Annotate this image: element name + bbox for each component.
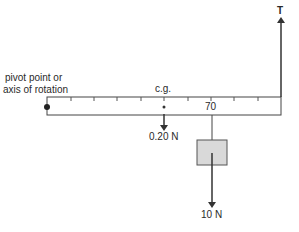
pivot-point-icon xyxy=(44,104,50,110)
pivot-label-line2: axis of rotation xyxy=(3,84,68,95)
tension-label: T xyxy=(277,5,283,16)
pivot-label-line1: pivot point or xyxy=(5,72,62,83)
center-of-gravity-icon xyxy=(163,106,166,109)
cg-label: c.g. xyxy=(155,83,171,94)
hanging-weight-label: 10 N xyxy=(201,209,222,220)
mark-70-label: 70 xyxy=(205,101,216,112)
lever-diagram xyxy=(0,0,299,232)
ruler-weight-label: 0.20 N xyxy=(149,131,178,142)
